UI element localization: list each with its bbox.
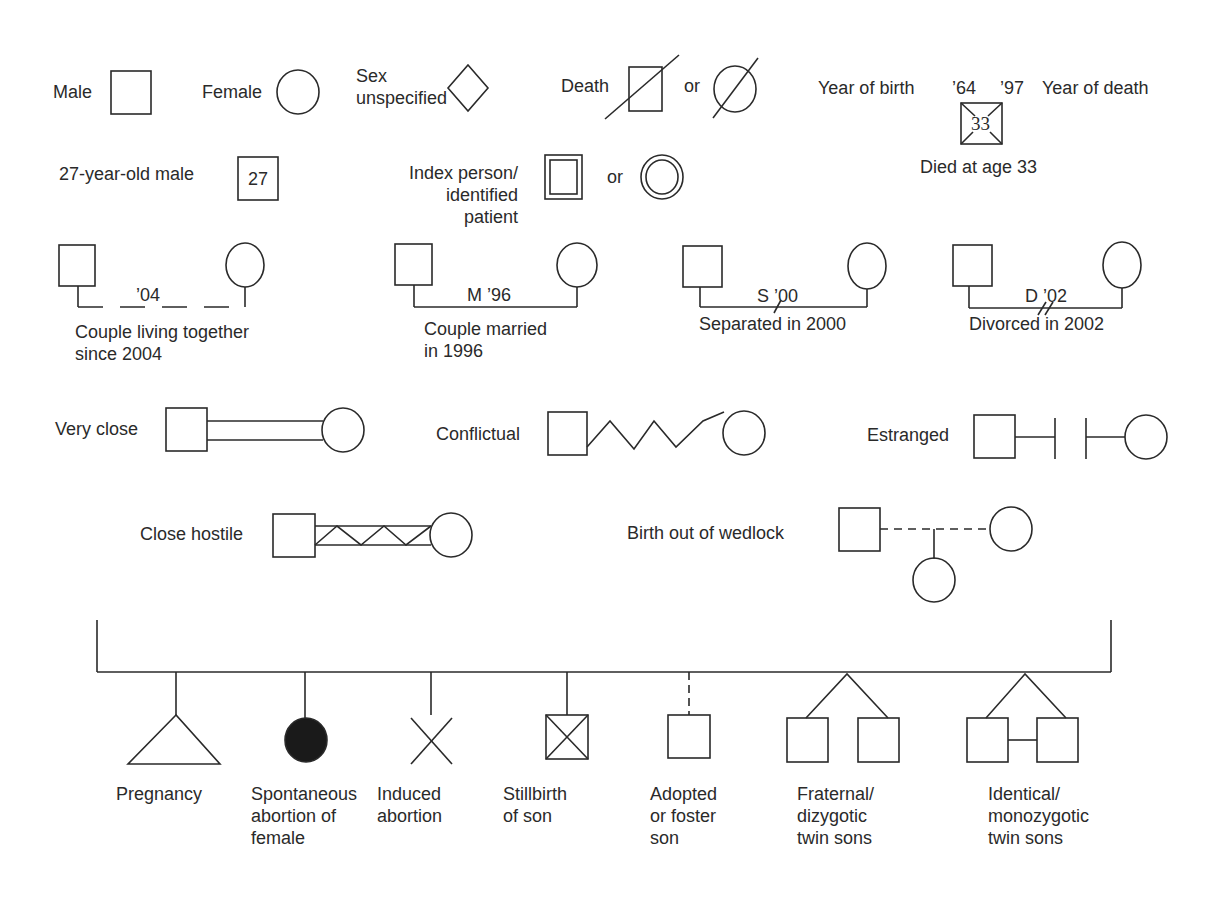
- conflictual-symbol: [548, 411, 765, 455]
- genogram-diagram: [0, 0, 1228, 908]
- female-label: Female: [202, 81, 262, 103]
- separated-year: S ’00: [757, 285, 798, 307]
- death-year-value: ’97: [1000, 77, 1024, 99]
- died-age-value: 33: [971, 113, 990, 135]
- couple-cohabiting: [59, 243, 264, 307]
- separated-label: Separated in 2000: [699, 313, 846, 335]
- sibship-line: [97, 620, 1111, 672]
- stillbirth-symbol: [546, 672, 588, 759]
- sex-unspecified-label: Sex unspecified: [356, 65, 447, 109]
- death-or-label: or: [684, 75, 700, 97]
- index-female-symbol: [641, 155, 683, 199]
- cohabiting-label: Couple living together since 2004: [75, 321, 249, 365]
- fraternal-twins-label: Fraternal/ dizygotic twin sons: [797, 783, 874, 849]
- identical-twins-label: Identical/ monozygotic twin sons: [988, 783, 1089, 849]
- adopted-label: Adopted or foster son: [650, 783, 717, 849]
- induced-abortion-symbol: [411, 672, 452, 764]
- pregnancy-symbol: [128, 672, 220, 764]
- birth-out-of-wedlock-label: Birth out of wedlock: [627, 522, 784, 544]
- close-hostile-label: Close hostile: [140, 523, 243, 545]
- death-label: Death: [561, 75, 609, 97]
- very-close-label: Very close: [55, 418, 138, 440]
- year-of-death-label: Year of death: [1042, 77, 1148, 99]
- died-at-age-label: Died at age 33: [920, 156, 1037, 178]
- divorced-label: Divorced in 2002: [969, 313, 1104, 335]
- divorced-year: D ’02: [1025, 285, 1067, 307]
- death-male-symbol: [605, 55, 679, 119]
- age-male-label: 27-year-old male: [59, 163, 194, 185]
- close-hostile-symbol: [273, 513, 472, 557]
- index-person-label: Index person/ identified patient: [390, 162, 518, 228]
- female-symbol: [277, 70, 319, 114]
- sex-unspecified-symbol: [448, 65, 488, 111]
- death-female-symbol: [713, 58, 758, 118]
- conflictual-label: Conflictual: [436, 423, 520, 445]
- male-symbol: [111, 71, 151, 114]
- spontaneous-abortion-label: Spontaneous abortion of female: [251, 783, 357, 849]
- index-male-symbol: [545, 155, 582, 199]
- male-label: Male: [53, 81, 92, 103]
- adopted-symbol: [668, 672, 710, 758]
- birth-year-value: ’64: [952, 77, 976, 99]
- index-or-label: or: [607, 166, 623, 188]
- stillbirth-label: Stillbirth of son: [503, 783, 567, 827]
- spontaneous-abortion-symbol: [285, 672, 327, 762]
- estranged-symbol: [974, 415, 1167, 459]
- induced-abortion-label: Induced abortion: [377, 783, 442, 827]
- married-year: M ’96: [467, 284, 511, 306]
- fraternal-twins-symbol: [787, 674, 899, 762]
- very-close-symbol: [166, 408, 364, 452]
- pregnancy-label: Pregnancy: [116, 783, 202, 805]
- identical-twins-symbol: [967, 674, 1078, 762]
- year-of-birth-label: Year of birth: [818, 77, 914, 99]
- cohabiting-year: ’04: [136, 284, 160, 306]
- birth-out-of-wedlock-symbol: [839, 507, 1032, 602]
- married-label: Couple married in 1996: [424, 318, 547, 362]
- age-value: 27: [248, 168, 268, 190]
- estranged-label: Estranged: [867, 424, 949, 446]
